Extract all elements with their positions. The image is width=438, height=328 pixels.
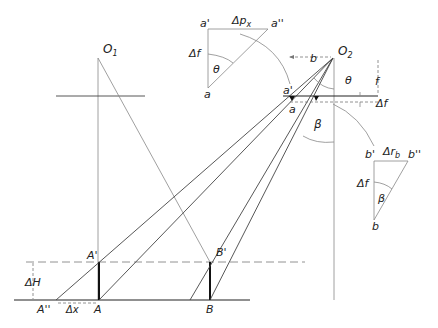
label-delta-h: ΔH	[24, 276, 41, 289]
label-a-small: a	[289, 103, 296, 116]
ray-o2-b	[210, 58, 333, 300]
label-o1: O1	[103, 42, 118, 58]
label-inset-delta-f-a: Δf	[188, 47, 203, 60]
label-a-prime: A'	[86, 249, 98, 262]
label-f: f	[375, 75, 381, 88]
label-a: A	[93, 303, 102, 316]
parallax-diagram: O1 O2 A' A A'' B' B ΔH Δx b θ f Δf a' a …	[0, 0, 438, 328]
label-b-prime: B'	[216, 246, 227, 259]
point-b-marker	[314, 96, 319, 101]
label-delta-x: Δx	[65, 304, 79, 315]
label-b: B	[206, 303, 214, 316]
label-delta-f-main: Δf	[375, 97, 390, 110]
ray-o2-a	[99, 58, 333, 300]
left-camera-geometry	[56, 58, 210, 300]
label-o2: O2	[338, 44, 353, 60]
right-camera-geometry	[240, 34, 378, 300]
label-inset-b-double-prime: b''	[408, 148, 421, 161]
label-inset-a-prime: a'	[200, 17, 210, 30]
label-inset-a: a	[204, 88, 211, 101]
label-theta-main: θ	[345, 74, 352, 87]
ray-o2-b-left	[190, 58, 333, 300]
label-inset-a-double-prime: a''	[271, 17, 284, 30]
label-a-double-prime: A''	[36, 303, 51, 316]
baseline-arrowhead	[289, 55, 294, 59]
o1-ray-to-b-prime	[98, 58, 210, 262]
label-delta-px: Δpx	[231, 14, 252, 29]
label-inset-b-prime: b'	[365, 148, 375, 161]
inset-triangle-a	[208, 29, 268, 88]
label-baseline-b: b	[310, 52, 317, 65]
label-beta-main: β	[313, 117, 322, 131]
label-inset-b: b	[372, 220, 379, 233]
label-inset-delta-f-b: Δf	[356, 177, 371, 190]
theta-arc	[314, 78, 334, 89]
label-inset-theta: θ	[213, 63, 220, 76]
arc-to-inset-a	[240, 34, 290, 84]
label-a-prime-small: a'	[283, 84, 293, 97]
label-delta-rb: Δrb	[382, 145, 400, 160]
beta-arc	[303, 136, 334, 142]
inset-triangle-b	[374, 161, 408, 220]
label-inset-beta: β	[377, 192, 385, 205]
arc-to-inset-b	[333, 104, 374, 146]
